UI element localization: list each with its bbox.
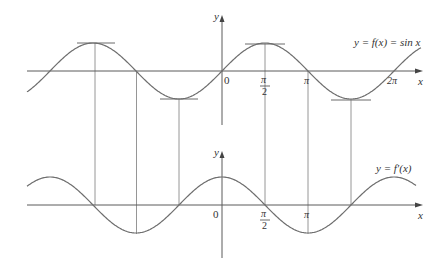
bottom-graph: y x 0 y = f′(x) π 2 π (27, 146, 423, 258)
bottom-y-label: y (213, 146, 219, 158)
bottom-y-axis-arrow-icon (220, 151, 225, 158)
bottom-tick-pi-half: π 2 (260, 208, 270, 231)
tick-numerator: π (261, 74, 267, 85)
bottom-x-axis-arrow-icon (415, 203, 423, 208)
top-tick-2pi: 2π (387, 75, 398, 86)
top-tick-pi: π (304, 75, 310, 86)
top-y-axis-arrow-icon (220, 15, 225, 22)
top-origin-label: 0 (224, 74, 230, 86)
top-tick-pi-half: π 2 (260, 74, 270, 97)
top-x-label: x (417, 75, 423, 87)
bottom-function-label: y = f′(x) (375, 162, 412, 175)
top-graph: y x 0 y = f(x) = sin x π 2 π 2π (27, 10, 423, 125)
bottom-tick-pi: π (304, 209, 310, 220)
top-function-label: y = f(x) = sin x (353, 36, 421, 49)
tick-numerator: π (261, 208, 267, 219)
top-y-label: y (213, 10, 219, 22)
tick-denominator: 2 (262, 86, 267, 97)
tick-denominator: 2 (262, 220, 267, 231)
top-x-axis-arrow-icon (415, 69, 423, 74)
bottom-origin-label: 0 (213, 208, 219, 220)
derivative-diagram: y x 0 y = f(x) = sin x π 2 π 2π y x 0 y … (0, 0, 444, 270)
bottom-x-label: x (417, 209, 423, 221)
